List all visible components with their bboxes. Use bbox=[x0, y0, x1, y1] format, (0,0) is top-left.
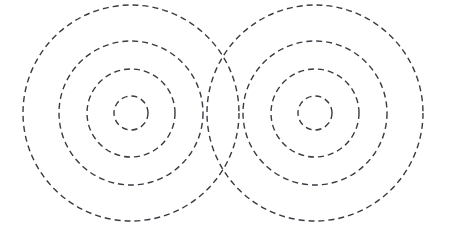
dashed-circles-diagram bbox=[0, 0, 449, 233]
canvas-background bbox=[0, 0, 449, 233]
figure-canvas bbox=[0, 0, 449, 233]
